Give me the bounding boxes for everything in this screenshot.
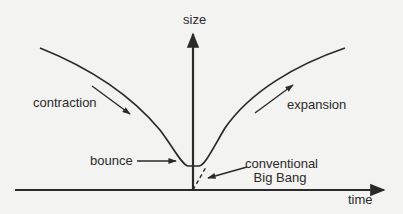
big-bang-pointer-arrow <box>208 167 247 178</box>
conventional-big-bang-label-line1: conventional <box>245 157 315 171</box>
conventional-big-bang-label-line2: Big Bang <box>245 171 315 185</box>
expansion-label: expansion <box>287 98 346 112</box>
bounce-cosmology-diagram: size time contraction expansion bounce c… <box>0 0 403 214</box>
contraction-label: contraction <box>33 96 97 110</box>
bounce-label: bounce <box>90 154 133 168</box>
size-axis-label: size <box>183 13 206 27</box>
conventional-big-bang-dashed-line <box>193 167 206 190</box>
contraction-direction-arrow <box>92 86 130 114</box>
conventional-big-bang-label: conventional Big Bang <box>245 157 315 185</box>
time-axis-label: time <box>348 193 373 207</box>
